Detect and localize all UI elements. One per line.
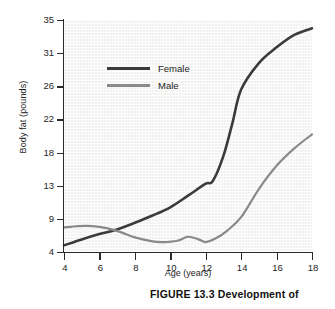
x-tick: 8 xyxy=(135,253,136,260)
y-tick: 26 xyxy=(57,86,64,87)
legend-label-female: Female xyxy=(158,63,190,74)
legend-item-male: Male xyxy=(107,77,217,94)
y-tick-label: 4 xyxy=(49,246,54,257)
y-tick-label: 18 xyxy=(43,147,54,158)
y-tick-label: 13 xyxy=(43,180,54,191)
x-tick: 18 xyxy=(312,253,313,260)
chart-legend: Female Male xyxy=(107,60,217,94)
series-line-male xyxy=(64,134,312,242)
legend-label-male: Male xyxy=(158,80,179,91)
chart-area: 49131822263135 4681012141618 Body fat (p… xyxy=(0,0,335,285)
x-tick: 14 xyxy=(241,253,242,260)
y-tick: 35 xyxy=(57,20,64,21)
x-tick: 6 xyxy=(99,253,100,260)
y-tick: 4 xyxy=(57,252,64,253)
legend-item-female: Female xyxy=(107,60,217,77)
x-tick: 16 xyxy=(277,253,278,260)
y-tick-label: 9 xyxy=(49,213,54,224)
data-series-layer xyxy=(64,20,312,252)
y-tick: 9 xyxy=(57,219,64,220)
y-tick: 18 xyxy=(57,153,64,154)
y-tick-label: 31 xyxy=(43,47,54,58)
figure-caption: FIGURE 13.3 Development of xyxy=(150,288,299,300)
y-tick: 13 xyxy=(57,186,64,187)
x-axis-title: Age (years) xyxy=(63,268,313,278)
y-tick: 31 xyxy=(57,53,64,54)
x-tick: 4 xyxy=(64,253,65,260)
legend-swatch-male-icon xyxy=(107,84,150,87)
x-tick: 10 xyxy=(170,253,171,260)
y-tick-label: 35 xyxy=(43,14,54,25)
y-tick-label: 22 xyxy=(43,113,54,124)
x-tick: 12 xyxy=(206,253,207,260)
y-tick-label: 26 xyxy=(43,80,54,91)
y-axis-title: Body fat (pounds) xyxy=(18,42,28,192)
y-tick: 22 xyxy=(57,119,64,120)
plot-background xyxy=(64,20,312,252)
figure-container: 49131822263135 4681012141618 Body fat (p… xyxy=(0,0,335,309)
legend-swatch-female-icon xyxy=(107,67,150,70)
